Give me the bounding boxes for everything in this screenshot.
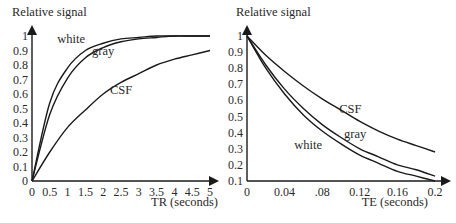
y-axis-arrow-icon bbox=[242, 25, 252, 35]
y-tick-label: 0.7 bbox=[228, 77, 243, 91]
y-tick-label: 0.1 bbox=[228, 174, 243, 188]
x-tick-label: 1 bbox=[65, 185, 71, 199]
y-tick-label: 0.1 bbox=[13, 160, 28, 174]
curve-label-csf: CSF bbox=[110, 83, 132, 97]
y-tick-label: 0.8 bbox=[228, 61, 243, 75]
curve-csf bbox=[247, 36, 435, 152]
curve-csf bbox=[32, 51, 210, 182]
y-tick-label: 0.3 bbox=[228, 142, 243, 156]
x-tick-label: 4 bbox=[171, 185, 177, 199]
curve-label-white: white bbox=[57, 32, 85, 46]
y-tick-label: 0.6 bbox=[13, 87, 28, 101]
x-tick-label: 2.5 bbox=[114, 185, 129, 199]
y-tick-label: 1 bbox=[22, 29, 28, 43]
y-tick-label: 0.5 bbox=[13, 102, 28, 116]
y-tick-label: 0.5 bbox=[228, 110, 243, 124]
chart-figure: Relative signalTR (seconds)00.10.20.30.4… bbox=[0, 0, 456, 223]
y-axis-label: Relative signal bbox=[236, 5, 311, 19]
x-tick-label: .08 bbox=[315, 185, 330, 199]
tr-chart: Relative signalTR (seconds)00.10.20.30.4… bbox=[12, 5, 219, 209]
x-tick-label: 1.5 bbox=[78, 185, 93, 199]
x-tick-label: 0 bbox=[244, 185, 250, 199]
y-tick-label: 1 bbox=[237, 29, 243, 43]
y-axis-arrow-icon bbox=[27, 25, 37, 35]
te-chart: Relative signalTE (seconds)0.10.20.30.40… bbox=[228, 5, 451, 209]
x-tick-label: 4.5 bbox=[185, 185, 200, 199]
y-tick-label: 0 bbox=[22, 174, 28, 188]
curve-label-white: white bbox=[294, 138, 322, 152]
y-axis-label: Relative signal bbox=[12, 5, 87, 19]
x-tick-label: 3 bbox=[136, 185, 142, 199]
y-tick-label: 0.3 bbox=[13, 131, 28, 145]
y-tick-label: 0.7 bbox=[13, 73, 28, 87]
y-tick-label: 0.9 bbox=[228, 45, 243, 59]
y-tick-label: 0.8 bbox=[13, 58, 28, 72]
y-tick-label: 0.2 bbox=[13, 145, 28, 159]
x-tick-label: 0 bbox=[29, 185, 35, 199]
y-tick-label: 0.9 bbox=[13, 44, 28, 58]
x-tick-label: 0.16 bbox=[387, 185, 408, 199]
x-axis-arrow-icon bbox=[441, 176, 451, 186]
curve-label-csf: CSF bbox=[339, 102, 361, 116]
x-tick-label: 0.12 bbox=[349, 185, 370, 199]
x-tick-label: 0.5 bbox=[42, 185, 57, 199]
x-tick-label: 0.04 bbox=[274, 185, 295, 199]
y-tick-label: 0.4 bbox=[228, 126, 243, 140]
x-tick-label: 2 bbox=[100, 185, 106, 199]
x-tick-label: 3.5 bbox=[149, 185, 164, 199]
y-tick-label: 0.4 bbox=[13, 116, 28, 130]
y-tick-label: 0.2 bbox=[228, 158, 243, 172]
y-tick-label: 0.6 bbox=[228, 93, 243, 107]
curve-label-gray: gray bbox=[344, 127, 367, 141]
curve-label-gray: gray bbox=[92, 44, 115, 58]
x-tick-label: 5 bbox=[207, 185, 213, 199]
x-tick-label: 0.2 bbox=[428, 185, 443, 199]
